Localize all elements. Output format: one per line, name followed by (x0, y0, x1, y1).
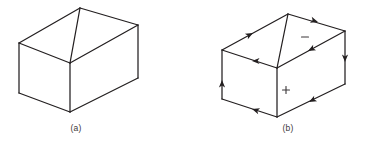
figure-canvas: (a) (b) (0, 0, 368, 148)
panel-a-label: (a) (71, 123, 82, 133)
panel-b-label: (b) (283, 123, 294, 133)
